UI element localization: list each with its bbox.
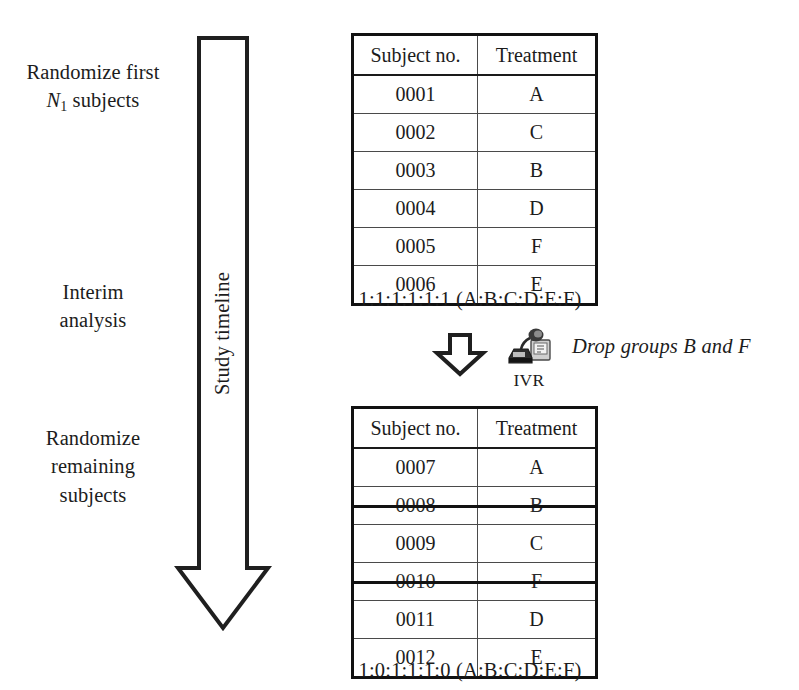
ivr-system-node: IVR — [494, 328, 564, 390]
column-header-subject-no: Subject no. — [353, 35, 478, 76]
cell-treatment: A — [478, 75, 597, 114]
cell-treatment: B — [478, 487, 597, 525]
telephone-ivr-icon — [506, 328, 552, 370]
down-arrow-icon — [170, 30, 274, 636]
table-row: 0003 B — [353, 152, 597, 190]
adaptation-transition-group: IVR Drop groups B and F — [432, 328, 792, 390]
cell-treatment: D — [478, 601, 597, 639]
cell-subject-no: 0003 — [353, 152, 478, 190]
stage-label-line: Randomize — [0, 424, 186, 452]
strikethrough-line — [476, 505, 597, 508]
ivr-label: IVR — [494, 371, 564, 390]
study-timeline-arrow — [170, 30, 274, 636]
table-row: 0005 F — [353, 228, 597, 266]
down-arrow-icon — [432, 331, 488, 377]
strikethrough-line — [352, 581, 479, 584]
table-body: 0001 A 0002 C 0003 B 0004 D 0005 F 0006 … — [353, 75, 597, 305]
table-row: 0002 C — [353, 114, 597, 152]
cell-treatment: F — [478, 228, 597, 266]
cell-treatment: D — [478, 190, 597, 228]
table-row-dropped: 0008 B — [353, 487, 597, 525]
randomization-table-stage1: Subject no. Treatment 0001 A 0002 C 0003… — [351, 33, 598, 306]
cell-subject-no: 0009 — [353, 525, 478, 563]
table-row: 0004 D — [353, 190, 597, 228]
strikethrough-line — [352, 505, 479, 508]
column-header-treatment: Treatment — [478, 35, 597, 76]
table-header-row: Subject no. Treatment — [353, 35, 597, 76]
stage-label-interim-analysis: Interim analysis — [0, 278, 186, 335]
stage-label-line: remaining — [0, 452, 186, 480]
subjects-word: subjects — [67, 89, 139, 111]
table-row: 0001 A — [353, 75, 597, 114]
cell-subject-no: 0001 — [353, 75, 478, 114]
stage-label-randomize-remaining: Randomize remaining subjects — [0, 424, 186, 509]
stage-label-line: analysis — [0, 306, 186, 334]
n-symbol: N — [47, 89, 61, 111]
allocation-ratio-caption-stage1: 1:1:1:1:1:1 (A:B:C:D:E:F) — [340, 288, 600, 311]
cell-subject-no: 0011 — [353, 601, 478, 639]
n1-variable: N1 — [47, 89, 68, 111]
table-row-dropped: 0010 F — [353, 563, 597, 601]
table-row: 0007 A — [353, 448, 597, 487]
table-row: 0011 D — [353, 601, 597, 639]
cell-subject-no: 0004 — [353, 190, 478, 228]
cell-treatment: F — [478, 563, 597, 601]
table-header-row: Subject no. Treatment — [353, 408, 597, 449]
cell-subject-no: 0007 — [353, 448, 478, 487]
cell-subject-no: 0010 — [353, 563, 478, 601]
randomization-table-stage2: Subject no. Treatment 0007 A 0008 B 0009… — [351, 406, 598, 679]
transition-arrow — [432, 331, 488, 377]
stage-label-line: Interim — [0, 278, 186, 306]
strikethrough-line — [476, 581, 597, 584]
stage-label-line: subjects — [0, 481, 186, 509]
cell-treatment: C — [478, 114, 597, 152]
cell-subject-no: 0005 — [353, 228, 478, 266]
stage-label-line: Randomize first — [0, 58, 186, 86]
diagram-canvas: Randomize first N1 subjects Interim anal… — [0, 0, 799, 690]
stage-label-line: N1 subjects — [0, 86, 186, 116]
drop-groups-note: Drop groups B and F — [572, 335, 751, 358]
cell-subject-no: 0008 — [353, 487, 478, 525]
cell-treatment: A — [478, 448, 597, 487]
cell-treatment: B — [478, 152, 597, 190]
column-header-subject-no: Subject no. — [353, 408, 478, 449]
stage-label-randomize-first: Randomize first N1 subjects — [0, 58, 186, 116]
column-header-treatment: Treatment — [478, 408, 597, 449]
cell-treatment: C — [478, 525, 597, 563]
cell-subject-no: 0002 — [353, 114, 478, 152]
allocation-ratio-caption-stage2: 1:0:1:1:1:0 (A:B:C:D:E:F) — [340, 659, 600, 682]
table-body: 0007 A 0008 B 0009 C 0010 F 0011 D 0012 … — [353, 448, 597, 678]
table-row: 0009 C — [353, 525, 597, 563]
